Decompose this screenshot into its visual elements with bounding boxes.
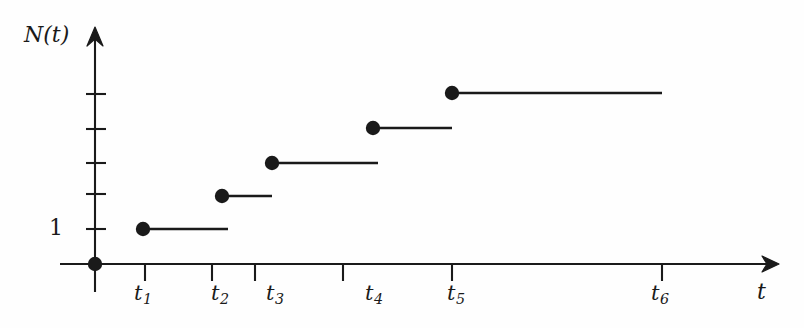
x-tick-label-t6-sub: 6 bbox=[659, 291, 669, 307]
jump-dot-t4 bbox=[366, 121, 380, 135]
x-tick-label-t4: t4 bbox=[365, 283, 383, 306]
x-axis-title-text: t bbox=[757, 279, 766, 304]
plot-canvas bbox=[0, 0, 804, 328]
y-value-label-one-text: 1 bbox=[49, 215, 63, 240]
y-axis-title-text: N(t) bbox=[24, 22, 69, 47]
step-function-curve bbox=[143, 93, 662, 229]
step-function-figure: N(t) 1 t1 t2 t3 t4 t5 t6 t bbox=[0, 0, 804, 328]
x-tick-label-t6: t6 bbox=[651, 283, 669, 306]
x-tick-label-t1: t1 bbox=[134, 283, 152, 306]
jump-dot-t1 bbox=[136, 222, 150, 236]
origin-dot bbox=[88, 257, 102, 271]
jump-dot-t2 bbox=[215, 189, 229, 203]
y-value-label-one: 1 bbox=[49, 217, 63, 239]
x-axis-title: t bbox=[757, 281, 766, 303]
axes-group bbox=[60, 27, 779, 292]
jump-dot-t3 bbox=[265, 156, 279, 170]
jump-point-dots bbox=[88, 86, 459, 271]
x-tick-label-t3-sub: 3 bbox=[274, 291, 284, 307]
x-tick-label-t1-sub: 1 bbox=[142, 291, 152, 307]
x-tick-label-t5-sub: 5 bbox=[455, 291, 465, 307]
x-tick-label-t4-sub: 4 bbox=[373, 291, 383, 307]
jump-dot-t5 bbox=[445, 86, 459, 100]
y-axis-title: N(t) bbox=[24, 24, 69, 46]
x-axis-ticks bbox=[145, 264, 662, 281]
x-tick-label-t5: t5 bbox=[447, 283, 465, 306]
x-tick-label-t2: t2 bbox=[211, 283, 229, 306]
x-tick-label-t3: t3 bbox=[266, 283, 284, 306]
x-tick-label-t2-sub: 2 bbox=[219, 291, 229, 307]
